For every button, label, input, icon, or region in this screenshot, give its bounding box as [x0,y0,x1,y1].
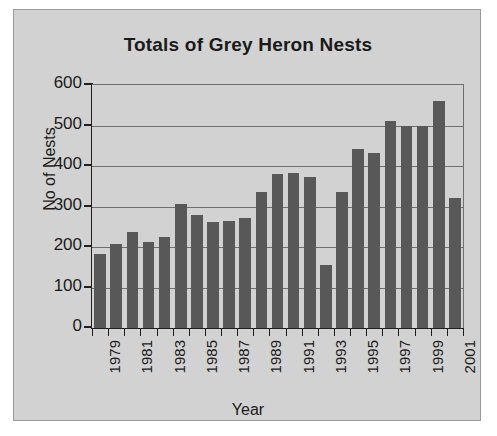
y-tick-label-0: 0 [18,316,82,336]
bar-1982 [143,242,155,328]
x-tick-mark-13 [302,329,303,336]
x-tick-mark-0 [92,329,93,336]
bar-1993 [320,265,332,328]
figure-container: Totals of Grey Heron Nests No of Nests 0… [0,0,497,436]
x-tick-label-1981: 1981 [138,340,155,373]
x-tick-mark-2 [124,329,125,336]
x-tick-label-1999: 1999 [429,340,446,373]
x-tick-mark-4 [157,329,158,336]
bar-1995 [352,149,364,328]
x-tick-label-1979: 1979 [106,340,123,373]
y-tick-mark-400 [84,164,92,166]
bar-1987 [223,221,235,328]
bar-2000 [433,101,445,328]
bar-1979 [94,254,106,328]
y-tick-label-500: 500 [18,114,82,134]
bar-1997 [385,121,397,328]
bar-1984 [175,204,187,328]
bar-1998 [401,126,413,328]
x-tick-label-1997: 1997 [396,340,413,373]
x-tick-mark-17 [366,329,367,336]
x-tick-mark-14 [318,329,319,336]
bar-1983 [159,237,171,328]
x-tick-mark-11 [269,329,270,336]
x-axis-title: Year [14,401,482,419]
x-tick-label-1993: 1993 [332,340,349,373]
y-tick-mark-600 [84,83,92,85]
bar-1988 [239,218,251,328]
x-tick-label-1985: 1985 [203,340,220,373]
y-tick-label-300: 300 [18,195,82,215]
bar-1996 [368,153,380,328]
x-tick-mark-5 [173,329,174,336]
plot-area [92,84,464,328]
bar-2001 [449,198,461,328]
y-tick-mark-100 [84,286,92,288]
x-tick-label-1987: 1987 [235,340,252,373]
y-tick-label-200: 200 [18,235,82,255]
bar-1980 [110,244,122,328]
y-tick-mark-200 [84,245,92,247]
bar-1999 [417,126,429,329]
x-tick-mark-19 [398,329,399,336]
chart-title: Totals of Grey Heron Nests [14,34,482,56]
x-tick-mark-18 [382,329,383,336]
x-tick-label-1991: 1991 [300,340,317,373]
bar-1991 [288,173,300,328]
x-tick-mark-7 [205,329,206,336]
x-tick-mark-16 [350,329,351,336]
bar-1992 [304,177,316,328]
x-tick-label-1995: 1995 [364,340,381,373]
y-tick-mark-0 [84,326,92,328]
x-tick-label-1989: 1989 [267,340,284,373]
y-tick-label-400: 400 [18,154,82,174]
y-tick-label-100: 100 [18,276,82,296]
chart-card: Totals of Grey Heron Nests No of Nests 0… [13,9,481,421]
bar-1981 [127,232,139,328]
x-tick-label-2001: 2001 [461,340,478,373]
x-tick-mark-21 [431,329,432,336]
bar-1990 [272,174,284,328]
x-tick-mark-20 [415,329,416,336]
bar-1989 [256,192,268,328]
x-tick-mark-6 [189,329,190,336]
y-tick-label-600: 600 [18,73,82,93]
x-tick-mark-12 [286,329,287,336]
x-tick-mark-3 [140,329,141,336]
y-tick-mark-300 [84,205,92,207]
x-tick-mark-23 [463,329,464,336]
x-tick-mark-8 [221,329,222,336]
y-tick-mark-500 [84,124,92,126]
x-tick-mark-10 [253,329,254,336]
x-tick-mark-9 [237,329,238,336]
x-tick-label-1983: 1983 [171,340,188,373]
x-tick-mark-1 [108,329,109,336]
x-tick-mark-15 [334,329,335,336]
bar-1985 [191,215,203,328]
bar-1994 [336,192,348,328]
x-tick-mark-22 [447,329,448,336]
bar-1986 [207,222,219,329]
